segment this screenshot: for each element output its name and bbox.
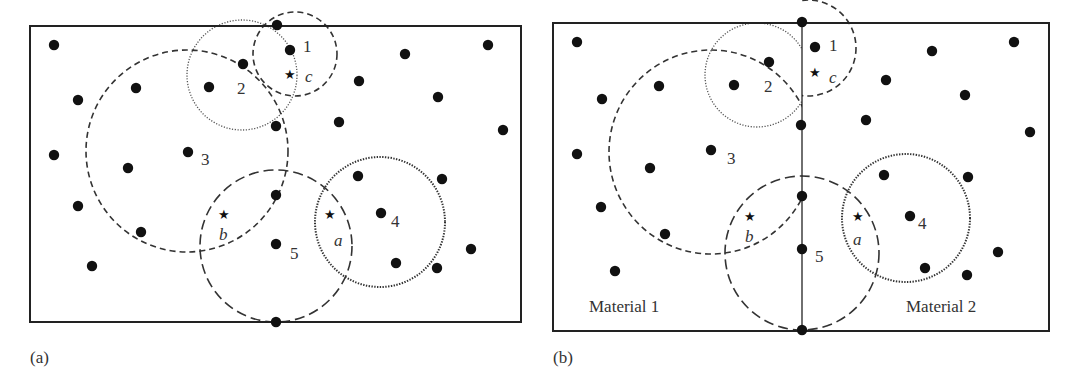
node-dot <box>596 202 606 212</box>
evaluation-point-star-b: ★ <box>744 209 756 224</box>
material-label: Material 2 <box>906 297 976 316</box>
node-dot <box>960 90 970 100</box>
node-dot <box>136 227 146 237</box>
node-dot <box>572 149 582 159</box>
neighborhood-circle-2 <box>705 23 809 127</box>
domain-boundary <box>553 23 1049 331</box>
panel-b: ★★★12345cbaMaterial 1Material 2(b) <box>553 0 1049 367</box>
node-dot <box>376 208 386 218</box>
node-dot <box>271 121 281 131</box>
node-dot <box>238 59 248 69</box>
node-dot <box>483 40 493 50</box>
label-b: b <box>219 225 228 244</box>
node-dot <box>498 125 508 135</box>
label-1: 1 <box>829 36 838 55</box>
node-dot <box>400 49 410 59</box>
node-dot <box>204 82 214 92</box>
evaluation-point-star-a: ★ <box>852 209 864 224</box>
node-dot <box>927 46 937 56</box>
node-dot <box>729 80 739 90</box>
node-dot <box>660 229 670 239</box>
label-4: 4 <box>391 212 400 231</box>
node-dot <box>271 190 281 200</box>
node-dot <box>645 163 655 173</box>
neighborhood-circle-1 <box>253 12 337 96</box>
node-dot <box>706 145 716 155</box>
node-dot <box>654 81 664 91</box>
domain-boundary <box>30 26 521 322</box>
label-c: c <box>305 67 313 86</box>
node-dot <box>73 95 83 105</box>
label-3: 3 <box>727 149 736 168</box>
node-dot <box>271 239 281 249</box>
evaluation-point-star-b: ★ <box>218 207 230 222</box>
node-dot <box>49 40 59 50</box>
node-dot <box>271 317 281 327</box>
node-dot <box>610 266 620 276</box>
evaluation-point-star-a: ★ <box>324 207 336 222</box>
node-dot <box>797 325 807 335</box>
node-dot <box>810 42 820 52</box>
node-dot <box>879 170 889 180</box>
node-dot <box>354 76 364 86</box>
node-dot <box>1025 127 1035 137</box>
label-2: 2 <box>237 79 246 98</box>
evaluation-point-star-c: ★ <box>809 65 821 80</box>
node-dot <box>466 244 476 254</box>
neighborhood-circle-4 <box>315 157 445 287</box>
node-dot <box>881 75 891 85</box>
neighborhood-circle-1 <box>760 0 856 96</box>
label-1: 1 <box>303 37 312 56</box>
node-dot <box>49 150 59 160</box>
node-dot <box>123 163 133 173</box>
node-dot <box>183 147 193 157</box>
node-dot <box>797 17 807 27</box>
node-dot <box>272 20 282 30</box>
node-dot <box>87 261 97 271</box>
node-dot <box>334 117 344 127</box>
material-label: Material 1 <box>589 297 659 316</box>
node-dot <box>285 45 295 55</box>
node-dot <box>764 57 774 67</box>
node-dot <box>920 263 930 273</box>
node-dot <box>572 37 582 47</box>
evaluation-point-star-c: ★ <box>284 67 296 82</box>
node-dot <box>391 258 401 268</box>
node-dot <box>905 211 915 221</box>
node-dot <box>432 263 442 273</box>
label-4: 4 <box>918 214 927 233</box>
label-5: 5 <box>815 247 824 266</box>
node-dot <box>993 247 1003 257</box>
diagram-figure: ★★★12345cba(a) ★★★12345cbaMaterial 1Mate… <box>0 0 1083 390</box>
node-dot <box>131 83 141 93</box>
label-3: 3 <box>201 150 210 169</box>
panel-a: ★★★12345cba(a) <box>30 12 521 367</box>
panel-caption: (a) <box>30 348 49 367</box>
label-a: a <box>334 231 343 250</box>
panel-caption: (b) <box>553 348 573 367</box>
node-dot <box>797 244 807 254</box>
node-dot <box>963 172 973 182</box>
node-dot <box>433 92 443 102</box>
node-dot <box>73 201 83 211</box>
label-c: c <box>829 68 837 87</box>
label-5: 5 <box>290 244 299 263</box>
node-dot <box>597 94 607 104</box>
label-a: a <box>853 230 862 249</box>
node-dot <box>962 270 972 280</box>
label-2: 2 <box>764 77 773 96</box>
label-b: b <box>745 227 754 246</box>
node-dot <box>796 120 806 130</box>
node-dot <box>861 115 871 125</box>
node-dot <box>437 174 447 184</box>
node-dot <box>353 171 363 181</box>
node-dot <box>797 191 807 201</box>
node-dot <box>1009 37 1019 47</box>
